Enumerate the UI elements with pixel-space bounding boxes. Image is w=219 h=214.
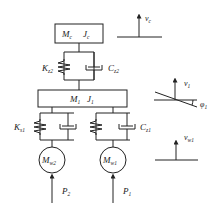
primary-suspension-right: Cz1 <box>90 107 151 147</box>
damper-icon <box>86 52 102 80</box>
svg-text:Mw1: Mw1 <box>102 155 117 166</box>
primary-suspension-left: Ks1 <box>13 107 76 147</box>
svg-text:P2: P2 <box>61 186 71 197</box>
secondary-suspension: Kz2 Cz2 <box>41 43 119 90</box>
car-body-mass-box: Mc Jc <box>55 24 103 43</box>
svg-text:vc: vc <box>145 14 152 24</box>
vw1-coordinate-axis: vw1 <box>155 133 198 160</box>
svg-text:Mw2: Mw2 <box>41 155 56 166</box>
damper-icon <box>119 113 135 140</box>
wheel-mass-1: Mw1 <box>100 147 126 173</box>
vc-coordinate-axis: vc <box>117 14 162 37</box>
svg-text:M1: M1 <box>69 94 81 105</box>
angle-arc-icon <box>192 100 193 105</box>
force-p2-arrow: P2 <box>52 176 71 203</box>
svg-text:φ1: φ1 <box>200 100 207 110</box>
svg-text:J1: J1 <box>87 94 94 105</box>
damper-label-cz2: Cz2 <box>108 63 119 74</box>
wheel-mass-2: Mw2 <box>39 147 65 173</box>
spring-label-ks1: Ks1 <box>13 122 25 133</box>
force-p1-arrow: P1 <box>113 176 132 203</box>
svg-text:P1: P1 <box>122 186 132 197</box>
damper-label-cz1: Cz1 <box>140 122 151 133</box>
svg-text:vw1: vw1 <box>184 133 194 143</box>
svg-text:v1: v1 <box>184 79 191 89</box>
bogie-mass-box: M1 J1 <box>38 90 127 107</box>
svg-text:Mc: Mc <box>61 29 73 40</box>
spring-label-kz2: Kz2 <box>41 63 53 74</box>
vehicle-vibration-diagram: Mc Jc Kz2 Cz2 M1 J1 <box>0 0 219 214</box>
damper-icon <box>60 113 76 140</box>
v1-phi1-coordinate-axis: v1 φ1 <box>154 79 207 110</box>
svg-text:Jc: Jc <box>83 29 90 40</box>
